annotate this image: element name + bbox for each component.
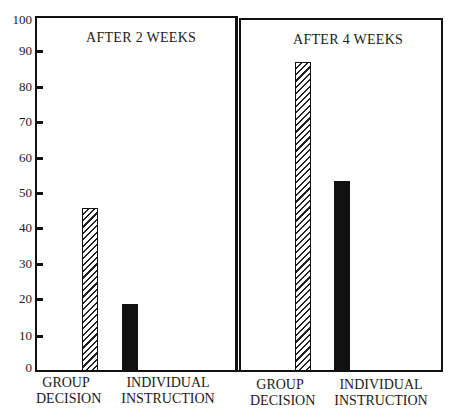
y-tick-label: 50 — [2, 185, 32, 201]
y-tick-label: 40 — [2, 220, 32, 236]
y-tick-label: 20 — [2, 291, 32, 307]
x-label-group-decision: GROUP DECISION — [36, 375, 96, 407]
panel-title: AFTER 4 WEEKS — [293, 32, 403, 48]
y-tick-label: 80 — [2, 79, 32, 95]
y-tick-label: 70 — [2, 114, 32, 130]
x-label-line: INSTRUCTION — [118, 391, 218, 407]
panel-title: AFTER 2 WEEKS — [86, 30, 196, 46]
x-label-line: INSTRUCTION — [331, 393, 431, 409]
x-label-line: GROUP — [250, 377, 310, 393]
y-tick-label: 0 — [2, 360, 32, 376]
bar-group-decision-2wk — [82, 208, 98, 371]
x-label-line: INDIVIDUAL — [331, 377, 431, 393]
x-label-line: GROUP — [36, 375, 96, 391]
x-label-line: DECISION — [250, 393, 310, 409]
x-label-individual-instruction: INDIVIDUAL INSTRUCTION — [118, 375, 218, 407]
y-tick-label: 30 — [2, 256, 32, 272]
bar-group-decision-4wk — [295, 62, 311, 371]
y-tick-label: 60 — [2, 150, 32, 166]
bar-individual-instruction-2wk — [122, 304, 138, 371]
bar-individual-instruction-4wk — [334, 181, 350, 371]
x-label-line: DECISION — [36, 391, 96, 407]
y-tick-label: 10 — [2, 328, 32, 344]
x-label-individual-instruction: INDIVIDUAL INSTRUCTION — [331, 377, 431, 409]
y-tick-label: 100 — [2, 12, 32, 28]
x-label-group-decision: GROUP DECISION — [250, 377, 310, 409]
x-label-line: INDIVIDUAL — [118, 375, 218, 391]
y-tick-label: 90 — [2, 43, 32, 59]
